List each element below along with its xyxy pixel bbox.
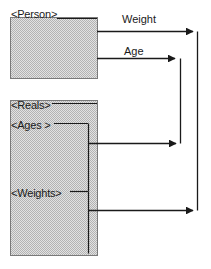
node-label-weights: <Weights> [11,187,62,199]
node-label-ages: <Ages > [11,119,51,131]
diagram-graphics [0,0,211,269]
edge-label-age: Age [124,45,144,57]
node-label-person: <Person> [11,8,57,20]
diagram-canvas: <Person> <Reals> <Ages > <Weights> Weigh… [0,0,211,269]
node-label-reals: <Reals> [11,99,51,111]
person-box [11,18,98,79]
edge-label-weight: Weight [122,13,156,25]
